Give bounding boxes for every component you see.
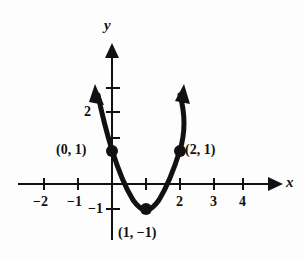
y-axis-label: y	[104, 18, 111, 33]
right-branch-arrow-icon	[175, 84, 190, 104]
x-tick-label-3: 3	[210, 195, 217, 209]
point-0-1-dot	[106, 145, 118, 157]
y-tick-label-neg1: −1	[88, 202, 103, 216]
point-label-0-1: (0, 1)	[56, 143, 86, 157]
x-axis-arrow-icon	[268, 177, 283, 191]
x-tick-label-4: 4	[239, 195, 246, 209]
x-tick-label-2: 2	[176, 195, 183, 209]
y-axis-arrow-icon	[105, 43, 119, 58]
curve-arrowheads	[89, 84, 190, 105]
x-tick-label-neg2: −2	[33, 195, 48, 209]
coordinate-plane	[0, 0, 303, 261]
y-tick-label-2: 2	[84, 105, 91, 119]
graph-figure: y x −2 −1 2 3 4 2 −1 (0, 1) (2, 1) (1, −…	[0, 0, 303, 261]
point-label-2-1: (2, 1)	[185, 143, 215, 157]
point-1-neg1-dot	[140, 203, 152, 215]
x-axis-label: x	[286, 175, 294, 190]
left-branch-arrow-icon	[89, 84, 104, 105]
x-tick-label-neg1: −1	[67, 195, 82, 209]
point-label-1-neg1: (1, −1)	[118, 226, 156, 240]
